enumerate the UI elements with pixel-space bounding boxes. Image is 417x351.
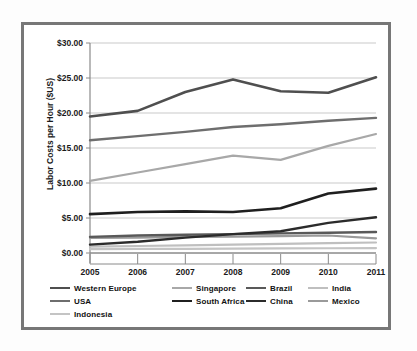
legend-item[interactable]: Western Europe [50,284,137,293]
x-axis-tick-label: 2008 [213,267,253,277]
legend-item[interactable]: USA [50,297,91,306]
legend-row: USASouth AfricaChinaMexico [50,296,368,306]
line-chart-svg [24,25,388,327]
legend-item[interactable]: Indonesia [50,310,112,319]
y-axis-tick-label: $25.00 [24,73,83,83]
y-axis-tick-label: $30.00 [24,38,83,48]
legend-item-label: Indonesia [74,310,112,319]
legend-item[interactable]: South Africa [172,297,244,306]
legend-item[interactable]: Singapore [172,284,236,293]
chart-plot-container: Labor Costs per Hour ($US) $0.00$5.00$10… [24,25,388,327]
series-line-western-europe [90,77,376,116]
legend-item-label: India [332,284,351,293]
legend-color-swatch [308,300,328,302]
series-line-singapore [90,134,376,181]
legend-color-swatch [50,300,70,302]
legend-color-swatch [172,287,192,289]
legend-color-swatch [246,287,266,289]
x-axis-tick-label: 2005 [70,267,110,277]
legend-item-label: China [270,297,293,306]
legend-item[interactable]: India [308,284,351,293]
legend-color-swatch [50,313,70,315]
chart-legend: Western EuropeSingaporeBrazilIndiaUSASou… [50,283,368,322]
y-axis-tick-label: $10.00 [24,178,83,188]
y-axis-tick-label: $0.00 [24,248,83,258]
y-axis-tick-label: $20.00 [24,108,83,118]
legend-item-label: Singapore [196,284,236,293]
legend-item-label: Brazil [270,284,292,293]
legend-row: Western EuropeSingaporeBrazilIndia [50,283,368,293]
x-axis-tick-label: 2009 [261,267,301,277]
series-line-south-africa [90,189,376,215]
y-axis-tick-label: $5.00 [24,213,83,223]
y-axis-tick-label: $15.00 [24,143,83,153]
legend-color-swatch [172,300,192,302]
chart-frame: Labor Costs per Hour ($US) $0.00$5.00$10… [21,22,391,330]
legend-item-label: South Africa [196,297,244,306]
series-line-indonesia [90,248,376,249]
legend-item[interactable]: China [246,297,293,306]
legend-item-label: Mexico [332,297,360,306]
x-axis-tick-label: 2010 [308,267,348,277]
legend-color-swatch [246,300,266,302]
legend-color-swatch [50,287,70,289]
legend-color-swatch [308,287,328,289]
legend-item-label: USA [74,297,91,306]
x-axis-tick-label: 2011 [356,267,396,277]
series-line-china [90,217,376,244]
chart-figure: Labor Costs per Hour ($US) $0.00$5.00$10… [0,0,417,351]
x-axis-tick-label: 2006 [118,267,158,277]
legend-item[interactable]: Mexico [308,297,360,306]
x-axis-tick-label: 2007 [165,267,205,277]
legend-item-label: Western Europe [74,284,137,293]
legend-row: Indonesia [50,309,368,319]
series-line-usa [90,118,376,140]
legend-item[interactable]: Brazil [246,284,292,293]
